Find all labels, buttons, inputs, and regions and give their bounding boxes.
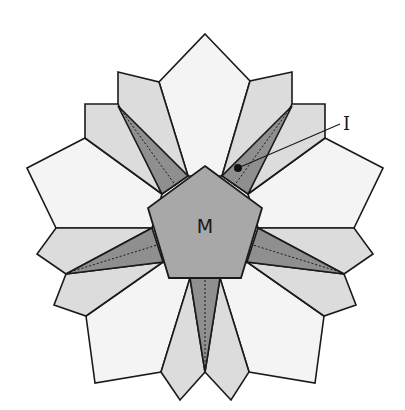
flower-star-diagram: M I (0, 0, 405, 410)
pointer-dot (234, 164, 242, 172)
pointer-label: I (343, 113, 350, 134)
center-label: M (197, 215, 213, 237)
